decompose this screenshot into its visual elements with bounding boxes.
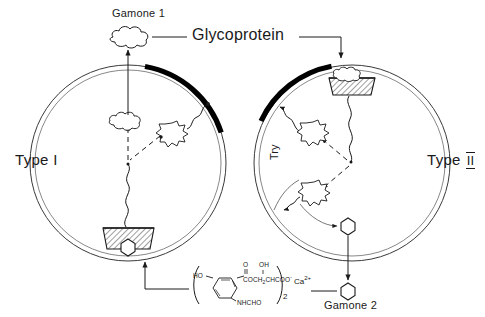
type-i-docked-gamone2-hexagon bbox=[121, 239, 135, 256]
chem-side-chain-charge: - bbox=[290, 274, 292, 280]
type-ii-starburst-lower bbox=[298, 180, 330, 206]
chem-side-chain-part2: CHCOO bbox=[265, 276, 290, 283]
gamone2-label: Gamone 2 bbox=[324, 300, 377, 311]
gamone2-to-type-i-receptor-arrow bbox=[145, 262, 189, 289]
type-ii-signal-wave-from-receptor bbox=[348, 96, 353, 162]
type-ii-dashed-arrow-to-upper-starburst bbox=[322, 139, 347, 160]
chem-hydroxyl-label: OH bbox=[259, 261, 269, 268]
type-i-signal-wave-lower bbox=[125, 164, 130, 227]
chem-side-chain-part1: COCH bbox=[243, 276, 263, 283]
type-i-starburst bbox=[156, 121, 188, 147]
chem-amide-label: NHCHO bbox=[237, 299, 261, 306]
type-ii-label-numeral: II bbox=[466, 152, 475, 169]
type-ii-signal-wave-to-membrane-lower bbox=[284, 197, 300, 210]
calcium-symbol: Ca bbox=[294, 277, 304, 286]
type-i-dashed-arrow-from-starburst bbox=[130, 136, 160, 160]
chem-carbonyl-oxygen-label: O bbox=[243, 261, 248, 268]
gamone1-label: Gamone 1 bbox=[112, 8, 165, 19]
calcium-charge: 2+ bbox=[304, 275, 311, 281]
trypsin-label: Try bbox=[269, 145, 280, 160]
glycoprotein-label: Glycoprotein bbox=[192, 27, 284, 43]
type-ii-internal-gamone2-hexagon bbox=[341, 218, 355, 235]
figure-linework bbox=[0, 0, 485, 317]
blepharisma-gamone-signaling-figure: Gamone 1 Glycoprotein Type I Type II Try… bbox=[0, 0, 485, 317]
type-ii-active-membrane-arc bbox=[261, 66, 332, 121]
type-ii-signal-wave-to-membrane-upper bbox=[280, 107, 299, 131]
glycoprotein-connector-right bbox=[299, 37, 341, 58]
try-pointer-curve bbox=[274, 180, 299, 210]
type-i-membrane-anchor-dot bbox=[206, 102, 210, 106]
type-ii-label: Type II bbox=[427, 152, 475, 167]
gamone1-glycoprotein-blob bbox=[110, 27, 148, 48]
type-i-signal-wave-upper bbox=[187, 105, 207, 129]
type-i-starburst-anchor-dot bbox=[159, 135, 162, 138]
type-i-glycoprotein-blob bbox=[109, 112, 140, 130]
type-ii-arrow-to-internal-hexagon bbox=[300, 204, 337, 226]
type-i-active-membrane-arc bbox=[145, 67, 221, 133]
type-ii-docked-glycoprotein-blob bbox=[333, 67, 360, 81]
type-ii-starburst-upper bbox=[297, 120, 329, 146]
type-i-label: Type I bbox=[15, 152, 58, 167]
gamone2-hexagon bbox=[341, 283, 355, 300]
chem-ring-hydroxyl-label: HO bbox=[193, 272, 203, 279]
calcium-ion-label: Ca2+ bbox=[294, 275, 311, 286]
bracket-subscript: 2 bbox=[283, 293, 287, 301]
type-ii-label-prefix: Type bbox=[427, 151, 465, 168]
chem-side-chain-label: COCH2CHCOO- bbox=[243, 274, 292, 285]
